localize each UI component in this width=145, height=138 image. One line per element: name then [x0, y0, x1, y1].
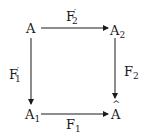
node-A-base: A: [26, 21, 35, 36]
label-F1-prime: F′1: [9, 67, 21, 84]
label-F2-base: F: [124, 64, 133, 79]
node-A1: A1: [25, 108, 40, 124]
label-F2-prime-sub: 2: [72, 16, 78, 26]
label-F1: F1: [66, 118, 81, 134]
node-A2: A2: [110, 24, 125, 40]
node-A-hat-base: A: [111, 108, 120, 121]
label-F2-prime: F′2: [66, 9, 78, 26]
label-F1-sub: 1: [75, 124, 81, 134]
label-F1-base: F: [66, 117, 75, 132]
node-A2-base: A: [110, 23, 119, 38]
node-A: A: [26, 22, 35, 35]
label-F1-prime-sub: 1: [15, 74, 21, 84]
label-F2-sub: 2: [133, 71, 139, 81]
node-A2-sub: 2: [119, 30, 125, 40]
node-A1-base: A: [25, 107, 34, 122]
label-F2: F2: [124, 65, 139, 81]
node-A-hat: A: [111, 108, 120, 121]
node-A1-sub: 1: [34, 114, 40, 124]
